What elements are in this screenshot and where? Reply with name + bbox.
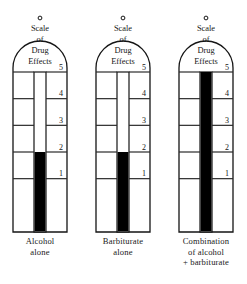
gauge-barbiturate-alone: ScaleofDrugEffects54321 <box>95 6 151 233</box>
level-label-1: 1 <box>142 169 146 178</box>
gauge-title-line: Drug <box>114 46 132 55</box>
caption-line: Alcohol <box>0 236 80 247</box>
gauge-title-line: Scale <box>31 24 49 33</box>
vent-hole-icon <box>204 16 208 20</box>
gauge-title-line: of <box>120 35 127 44</box>
caption-alcohol-alone: Alcoholalone <box>0 236 80 257</box>
gauge-title-line: Scale <box>114 24 132 33</box>
level-label-4: 4 <box>142 89 146 98</box>
gauge-title-line: of <box>37 35 44 44</box>
gauge-title-line: Effects <box>111 57 135 66</box>
level-label-1: 1 <box>225 169 229 178</box>
mercury-fill <box>118 152 129 231</box>
level-label-5: 5 <box>142 63 146 72</box>
level-label-5: 5 <box>225 63 229 72</box>
caption-line: Barbiturate <box>83 236 163 247</box>
gauge-body-alcohol-alone: ScaleofDrugEffects54321 <box>12 6 68 233</box>
level-label-2: 2 <box>59 143 63 152</box>
caption-barbiturate-alone: Barbituratealone <box>83 236 163 257</box>
drug-effects-figure: ScaleofDrugEffects54321AlcoholaloneScale… <box>0 0 247 284</box>
mercury-fill <box>35 152 46 231</box>
level-label-3: 3 <box>142 116 146 125</box>
gauge-combination-alcohol-barbiturate: ScaleofDrugEffects54321 <box>178 6 234 233</box>
gauge-title-line: Effects <box>194 57 218 66</box>
level-label-2: 2 <box>142 143 146 152</box>
gauge-title-line: Effects <box>28 57 52 66</box>
gauge-title-line: Drug <box>31 46 49 55</box>
caption-line: Combination <box>166 236 246 247</box>
caption-combination-alcohol-barbiturate: Combinationof alcohol+ barbiturate <box>166 236 246 268</box>
gauge-title-line: of <box>203 35 210 44</box>
gauge-body-barbiturate-alone: ScaleofDrugEffects54321 <box>95 6 151 233</box>
mercury-fill <box>201 72 212 231</box>
vent-hole-icon <box>121 16 125 20</box>
level-label-3: 3 <box>59 116 63 125</box>
level-label-2: 2 <box>225 143 229 152</box>
gauge-body-combination-alcohol-barbiturate: ScaleofDrugEffects54321 <box>178 6 234 233</box>
level-label-1: 1 <box>59 169 63 178</box>
caption-line: alone <box>83 247 163 258</box>
vent-hole-icon <box>38 16 42 20</box>
caption-line: alone <box>0 247 80 258</box>
level-label-4: 4 <box>225 89 229 98</box>
gauge-title-line: Drug <box>197 46 215 55</box>
gauge-title-line: Scale <box>197 24 215 33</box>
gauge-alcohol-alone: ScaleofDrugEffects54321 <box>12 6 68 233</box>
caption-line: + barbiturate <box>166 257 246 268</box>
level-label-5: 5 <box>59 63 63 72</box>
level-label-4: 4 <box>59 89 63 98</box>
level-label-3: 3 <box>225 116 229 125</box>
caption-line: of alcohol <box>166 247 246 258</box>
